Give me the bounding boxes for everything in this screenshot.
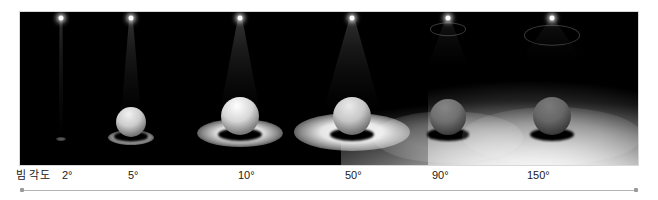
illuminated-sphere <box>221 97 259 135</box>
fixture-reflector-ring <box>524 25 580 45</box>
render-panel <box>20 12 638 165</box>
angle-label-5deg: 5° <box>128 168 139 182</box>
beam-angle-title: 빔 각도 <box>16 168 50 182</box>
beam-cone <box>121 20 141 116</box>
luminaire-fixture <box>130 18 132 20</box>
light-source-bulb <box>350 16 355 21</box>
beam-scene-2deg <box>26 12 96 165</box>
beam-cone <box>324 20 380 108</box>
illuminated-sphere <box>116 107 146 137</box>
angle-label-90deg: 90° <box>432 168 449 182</box>
illuminated-sphere <box>333 97 371 135</box>
illuminated-sphere <box>430 99 466 135</box>
light-source-bulb <box>238 16 243 21</box>
light-source-bulb <box>550 16 555 21</box>
beam-scene-5deg <box>88 12 174 165</box>
beam-scene-150deg <box>492 12 612 165</box>
axis-end-marker <box>634 188 638 192</box>
axis-start-marker <box>20 188 24 192</box>
light-source-bulb <box>59 16 64 21</box>
angle-axis-line <box>22 190 636 191</box>
light-source-bulb <box>129 16 134 21</box>
fixture-reflector-ring <box>430 22 466 36</box>
beam-angle-figure: 빔 각도 2°5°10°50°90°150° <box>0 0 658 200</box>
luminaire-fixture <box>447 18 449 20</box>
luminaire-fixture <box>551 18 553 20</box>
angle-caption-row: 빔 각도 2°5°10°50°90°150° <box>0 168 658 184</box>
angle-label-50deg: 50° <box>345 168 362 182</box>
light-source-bulb <box>446 16 451 21</box>
beam-scene-10deg <box>186 12 294 165</box>
luminaire-fixture <box>60 18 62 20</box>
beam-cone <box>59 20 64 138</box>
angle-label-2deg: 2° <box>62 168 73 182</box>
luminaire-fixture <box>351 18 353 20</box>
illuminated-sphere <box>533 97 571 135</box>
luminaire-fixture <box>239 18 241 20</box>
angle-label-150deg: 150° <box>527 168 550 182</box>
angle-label-10deg: 10° <box>238 168 255 182</box>
